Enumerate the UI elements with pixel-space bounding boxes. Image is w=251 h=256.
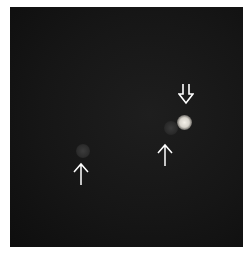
dim-fluorescent-spot-right — [164, 121, 178, 135]
micrograph-frame — [10, 7, 243, 247]
bright-fluorescent-spot — [177, 115, 192, 130]
up-arrow-left-icon — [73, 162, 89, 186]
up-arrow-right-icon — [157, 143, 173, 167]
dim-fluorescent-spot-left — [76, 144, 90, 158]
hollow-down-arrow-icon — [178, 83, 194, 105]
